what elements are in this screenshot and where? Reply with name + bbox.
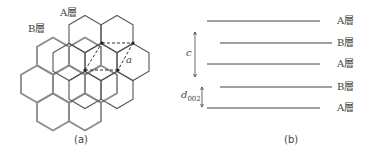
a-layer-hexagon [69,16,101,53]
d-subscript: 002 [187,95,200,103]
layer-label-5: A層 [337,103,354,113]
layer-label-1: A層 [337,16,354,26]
a-layer-hexagon [117,44,149,81]
panel-a-caption: (a) [74,135,88,145]
c-axis-label: c [186,48,192,58]
a-layer-hexagon [101,16,133,53]
layer-label-3: A層 [337,59,354,69]
a-layer-label: A層 [60,8,77,18]
b-layer-hexagon [69,94,101,131]
d002-label: d002 [181,90,201,100]
lattice-atom-dot [100,41,103,44]
lattice-atom-dot [83,68,86,71]
b-layer-hexagon [37,94,69,131]
b-layer-label: B層 [28,24,45,34]
graphite-structure-figure: A層 B層 a (a) A層 B層 A層 B層 A層 c d002 (b) [0,0,373,155]
lattice-atom-dot [116,68,119,71]
diagram-canvas [0,0,373,155]
lattice-atom-dot [131,41,134,44]
panel-b-caption: (b) [284,135,298,145]
layer-label-4: B層 [337,82,354,92]
layer-label-2: B層 [337,38,354,48]
lattice-constant-label: a [126,55,132,65]
